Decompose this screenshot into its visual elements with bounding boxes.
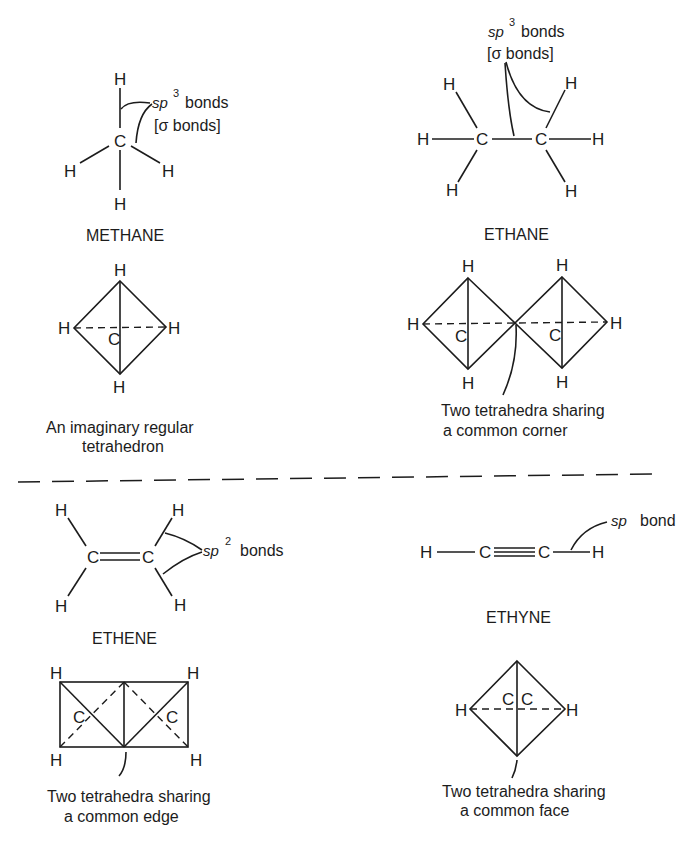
ethane-title: ETHANE — [484, 226, 549, 243]
methane-structure: H C H H H sp 3 bonds [σ bonds] METHANE — [64, 70, 229, 244]
c-label: C — [166, 708, 178, 727]
svg-text:bonds: bonds — [521, 23, 565, 40]
methane-tetrahedron: H H H H C An imaginary regular tetrahedr… — [46, 261, 194, 455]
ethane-h-bottom-right: H — [565, 182, 577, 201]
methane-h-bottom: H — [114, 195, 126, 214]
ethene-h-bottom-left: H — [55, 597, 67, 616]
svg-text:3: 3 — [509, 16, 515, 28]
ethene-c2: C — [142, 548, 154, 567]
hybridization-figure: H C H H H sp 3 bonds [σ bonds] METHANE H… — [0, 0, 693, 855]
h-label: H — [455, 701, 467, 720]
ethyne-caption-1: Two tetrahedra sharing — [442, 783, 606, 800]
face-leader — [512, 760, 517, 778]
ethene-tetrahedra: H H H H C C Two tetrahedra sharing a com… — [47, 664, 211, 825]
ethene-structure: H H C C H H sp 2 bonds ETHENE — [55, 501, 284, 647]
c-label: C — [549, 326, 561, 345]
ethene-h-bottom-right: H — [174, 596, 186, 615]
svg-text:sp: sp — [203, 542, 219, 559]
svg-text:[σ bonds]: [σ bonds] — [154, 117, 221, 134]
h-label: H — [610, 314, 622, 333]
ethyne-h-left: H — [420, 543, 432, 562]
ethene-h-top-left: H — [55, 501, 67, 520]
methane-title: METHANE — [86, 227, 164, 244]
ethane-caption-2: a common corner — [443, 422, 568, 439]
ethane-h-bottom-left: H — [446, 181, 458, 200]
methane-caption-1: An imaginary regular — [46, 419, 194, 436]
ethane-tetrahedra: H H H H H H C C Two tetrahedra sharing a… — [407, 256, 622, 439]
methane-h-right: H — [162, 162, 174, 181]
svg-text:sp: sp — [488, 23, 504, 40]
ethene-annotation: sp 2 bonds — [203, 535, 284, 559]
svg-text:bonds: bonds — [240, 542, 284, 559]
c-label: C — [502, 690, 514, 709]
h-label: H — [190, 751, 202, 770]
methane-annotation: sp 3 bonds [σ bonds] — [152, 87, 229, 134]
methane-h-top: H — [114, 70, 126, 89]
h-label: H — [407, 315, 419, 334]
svg-text:[σ bonds]: [σ bonds] — [487, 45, 554, 62]
ethene-leader-2 — [163, 552, 202, 574]
ethane-structure: H C C H H H H H sp 3 bonds [σ bonds] ETH… — [417, 16, 604, 243]
ethyne-structure: H C C H sp bond ETHYNE — [420, 512, 676, 626]
ethyne-h-right: H — [592, 543, 604, 562]
ethane-c2: C — [535, 130, 547, 149]
ethyne-c1: C — [479, 543, 491, 562]
h-label: H — [168, 319, 180, 338]
h-label: H — [566, 701, 578, 720]
h-label: H — [462, 374, 474, 393]
ethane-h-top-right: H — [565, 74, 577, 93]
c-label: C — [73, 708, 85, 727]
methane-leader-1 — [121, 102, 150, 109]
ethane-h-right: H — [592, 130, 604, 149]
ethyne-caption-2: a common face — [460, 802, 569, 819]
edge-leader — [119, 752, 126, 776]
svg-text:sp: sp — [611, 512, 627, 529]
ethane-caption-1: Two tetrahedra sharing — [441, 402, 605, 419]
svg-text:bond: bond — [640, 512, 676, 529]
ethane-h-left: H — [417, 130, 429, 149]
methane-leader-2 — [136, 104, 152, 143]
methane-caption-2: tetrahedron — [82, 438, 164, 455]
section-divider — [18, 474, 656, 482]
c-label: C — [455, 327, 467, 346]
ethene-c1: C — [87, 548, 99, 567]
c-label: C — [521, 690, 533, 709]
ethyne-c2: C — [538, 543, 550, 562]
h-label: H — [462, 257, 474, 276]
ethene-caption-2: a common edge — [64, 808, 179, 825]
h-label: H — [556, 256, 568, 275]
ethane-leader-2 — [506, 62, 550, 112]
ethane-annotation: sp 3 bonds [σ bonds] — [487, 16, 565, 62]
h-label: H — [556, 373, 568, 392]
ethyne-title: ETHYNE — [486, 609, 551, 626]
h-label: H — [50, 751, 62, 770]
svg-text:3: 3 — [173, 87, 179, 99]
h-label: H — [114, 261, 126, 280]
svg-text:sp: sp — [152, 94, 168, 111]
h-label: H — [58, 319, 70, 338]
ethyne-annotation: sp bond — [611, 512, 676, 529]
ethene-caption-1: Two tetrahedra sharing — [47, 788, 211, 805]
h-label: H — [50, 664, 62, 683]
ethyne-tetrahedra: H H C C Two tetrahedra sharing a common … — [442, 661, 606, 819]
c-label: C — [108, 330, 120, 349]
h-label: H — [187, 664, 199, 683]
svg-text:bonds: bonds — [185, 94, 229, 111]
corner-leader — [503, 325, 516, 395]
methane-c: C — [114, 132, 126, 151]
svg-text:2: 2 — [225, 535, 231, 547]
ethene-h-top-right: H — [172, 501, 184, 520]
ethane-h-top-left: H — [443, 75, 455, 94]
ethene-leader-1 — [165, 533, 202, 550]
ethane-c1: C — [476, 130, 488, 149]
ethene-title: ETHENE — [92, 630, 157, 647]
h-label: H — [113, 378, 125, 397]
methane-h-left: H — [64, 162, 76, 181]
